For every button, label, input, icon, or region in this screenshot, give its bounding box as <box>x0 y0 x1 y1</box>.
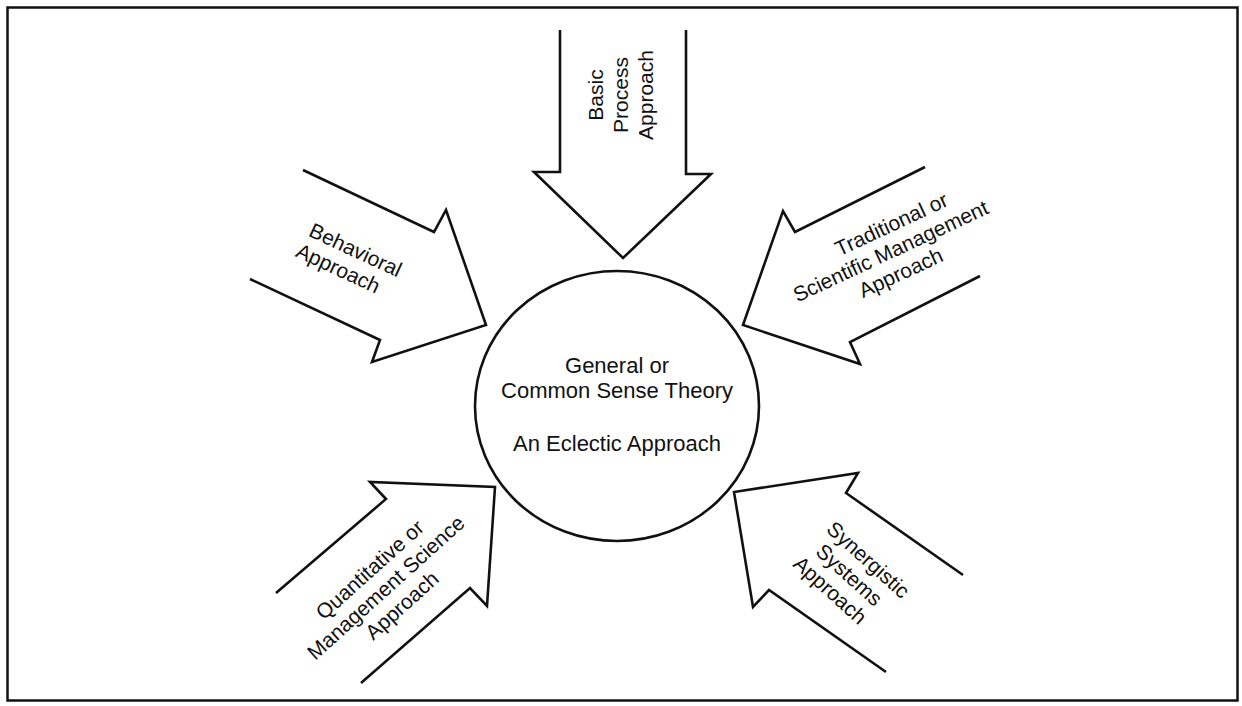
arrow-basic-process-line-3: Approach <box>634 50 657 140</box>
arrow-basic-process: Basic Process Approach <box>534 30 711 258</box>
arrow-quantitative-line-2: Management Science <box>302 511 468 664</box>
center-subtitle: An Eclectic Approach <box>513 431 721 456</box>
center-title-line-1: General or <box>565 353 669 378</box>
center-title-line-2: Common Sense Theory <box>501 378 733 403</box>
arrow-quantitative: Quantitative or Management Science Appro… <box>276 482 495 683</box>
arrow-basic-process-line-2: Process <box>609 57 632 133</box>
eclectic-approach-diagram: General or Common Sense Theory An Eclect… <box>0 0 1242 706</box>
arrow-traditional: Traditional or Scientific Management App… <box>743 167 1002 364</box>
arrow-synergistic: Synergistic Systems Approach <box>734 473 963 672</box>
arrow-basic-process-line-1: Basic <box>584 69 607 120</box>
center-circle: General or Common Sense Theory An Eclect… <box>475 271 759 541</box>
arrow-behavioral: Behavioral Approach <box>250 170 486 362</box>
